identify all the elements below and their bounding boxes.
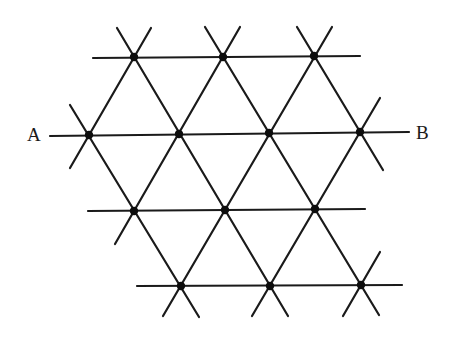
point-label-b: B [416, 123, 429, 142]
lattice-node-r0c2 [310, 52, 318, 60]
lattice-node-r0c0 [130, 53, 138, 61]
lattice-nodes [85, 52, 365, 290]
lattice-node-r0c1 [219, 53, 227, 61]
lattice-node-r2c2 [311, 205, 319, 213]
lattice-line-d-down-2 [205, 27, 379, 315]
lattice-line-d-up-1 [70, 28, 151, 168]
lattice-node-r1c0 [85, 131, 93, 139]
lattice-node-r1c3 [356, 128, 364, 136]
lattice-node-r1c1 [175, 130, 183, 138]
triangular-lattice-diagram [0, 0, 453, 345]
lattice-line-d-up-3 [163, 27, 332, 316]
lattice-node-r1c2 [265, 129, 273, 137]
lattice-node-r3c0 [177, 282, 185, 290]
lattice-node-r2c0 [130, 207, 138, 215]
lattice-line-d-down-3 [297, 27, 383, 170]
lattice-node-r3c2 [357, 281, 365, 289]
lattice-node-r2c1 [221, 206, 229, 214]
lattice-line-d-down-1 [117, 28, 288, 316]
lattice-node-r3c1 [266, 282, 274, 290]
lattice-line-h-row1-AB [50, 132, 409, 136]
lattice-lines [50, 27, 409, 317]
point-label-a: A [27, 125, 41, 144]
